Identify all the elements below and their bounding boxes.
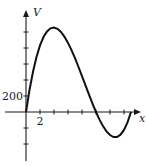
y-tick-label: 200 — [2, 90, 23, 103]
x-axis-label: x — [139, 112, 146, 125]
x-tick-label: 2 — [37, 115, 44, 128]
axes — [5, 10, 141, 161]
chart: 2200 x V — [0, 0, 146, 166]
y-axis-arrow-icon — [23, 10, 29, 17]
y-axis-label: V — [33, 6, 42, 19]
tick-labels: 2200 — [2, 90, 44, 128]
